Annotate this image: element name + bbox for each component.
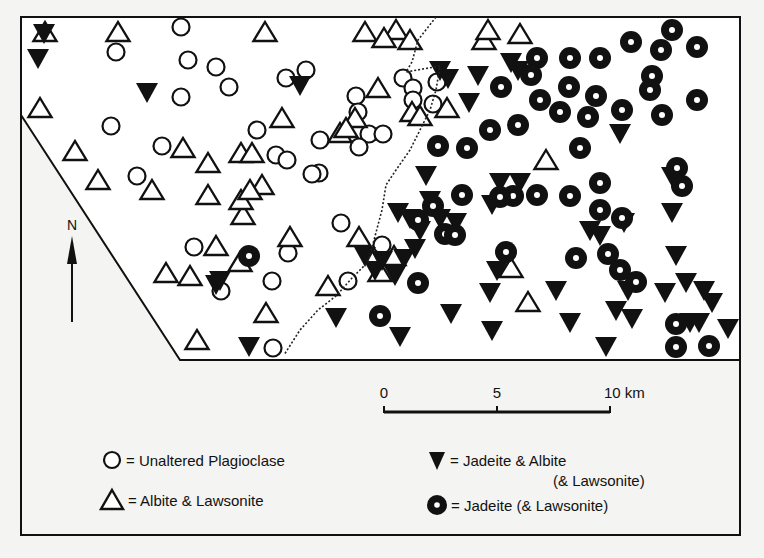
open-circle-icon xyxy=(351,139,368,156)
open-circle-icon xyxy=(129,168,146,185)
open-circle-icon xyxy=(186,239,203,256)
open-circle-icon xyxy=(374,237,391,254)
bullseye-icon xyxy=(549,101,571,123)
bullseye-icon xyxy=(686,36,708,58)
bullseye-icon xyxy=(558,76,580,98)
bullseye-icon xyxy=(451,184,473,206)
open-circle-icon xyxy=(249,122,266,139)
bullseye-icon xyxy=(585,85,607,107)
bullseye-icon xyxy=(686,89,708,111)
bullseye-icon xyxy=(529,89,551,111)
open-circle-icon xyxy=(104,452,120,468)
open-circle-icon xyxy=(312,132,329,149)
bullseye-icon xyxy=(665,336,687,358)
open-circle-icon xyxy=(265,340,282,357)
bullseye-icon xyxy=(651,104,673,126)
bullseye-icon xyxy=(489,186,511,208)
bullseye-icon xyxy=(611,99,633,121)
open-circle-icon xyxy=(221,79,238,96)
scale-label-0: 0 xyxy=(380,384,388,401)
bullseye-icon xyxy=(698,335,720,357)
bullseye-icon xyxy=(495,241,517,263)
bullseye-icon xyxy=(427,135,449,157)
bullseye-icon xyxy=(611,207,633,229)
bullseye-icon xyxy=(661,19,683,41)
open-circle-icon xyxy=(103,118,120,135)
north-label: N xyxy=(67,217,77,233)
bullseye-icon xyxy=(479,119,501,141)
bullseye-icon xyxy=(559,47,581,69)
bullseye-icon xyxy=(569,137,591,159)
open-circle-icon xyxy=(154,138,171,155)
bullseye-icon xyxy=(665,313,687,335)
bullseye-icon xyxy=(490,76,512,98)
bullseye-icon xyxy=(407,272,429,294)
open-circle-icon xyxy=(208,59,225,76)
open-circle-icon xyxy=(264,273,281,290)
open-circle-icon xyxy=(173,89,190,106)
bullseye-icon xyxy=(507,114,529,136)
open-circle-icon xyxy=(304,166,321,183)
bullseye-icon xyxy=(369,305,391,327)
bullseye-icon xyxy=(238,245,260,267)
bullseye-icon xyxy=(671,175,693,197)
bullseye-icon xyxy=(526,184,548,206)
bullseye-icon xyxy=(444,224,466,246)
scale-label-5: 5 xyxy=(493,384,501,401)
legend-label-unaltered-plagioclase: = Unaltered Plagioclase xyxy=(126,452,285,469)
legend-label-jadeite-albite-line2: (& Lawsonite) xyxy=(553,472,645,489)
bullseye-icon-center xyxy=(434,502,440,508)
legend-item-unaltered-plagioclase: = Unaltered Plagioclase xyxy=(104,452,285,469)
legend-label-jadeite-albite: = Jadeite & Albite xyxy=(450,452,566,469)
open-circle-icon xyxy=(279,152,296,169)
bullseye-icon xyxy=(589,47,611,69)
bullseye-icon xyxy=(577,106,599,128)
bullseye-icon xyxy=(565,247,587,269)
open-circle-icon xyxy=(298,62,315,79)
bullseye-icon xyxy=(520,64,542,86)
scale-label-10km: 10 km xyxy=(604,384,645,401)
open-circle-icon xyxy=(180,52,197,69)
bullseye-icon xyxy=(620,31,642,53)
open-circle-icon xyxy=(348,88,365,105)
bullseye-icon xyxy=(650,39,672,61)
bullseye-icon xyxy=(407,209,429,231)
bullseye-icon xyxy=(639,79,661,101)
bullseye-icon xyxy=(456,137,478,159)
legend-label-albite-lawsonite: = Albite & Lawsonite xyxy=(128,492,264,509)
open-circle-icon xyxy=(173,19,190,36)
open-circle-icon xyxy=(108,44,125,61)
open-circle-icon xyxy=(375,126,392,143)
open-circle-icon xyxy=(333,215,350,232)
bullseye-icon xyxy=(589,172,611,194)
bullseye-icon xyxy=(625,271,647,293)
bullseye-icon xyxy=(589,199,611,221)
bullseye-icon xyxy=(559,185,581,207)
legend-item-jadeite: = Jadeite (& Lawsonite) xyxy=(427,495,608,515)
geologic-map-figure: N 0 5 10 km = Unaltered Plagioclase = Al… xyxy=(0,0,764,558)
legend-label-jadeite: = Jadeite (& Lawsonite) xyxy=(451,497,608,514)
